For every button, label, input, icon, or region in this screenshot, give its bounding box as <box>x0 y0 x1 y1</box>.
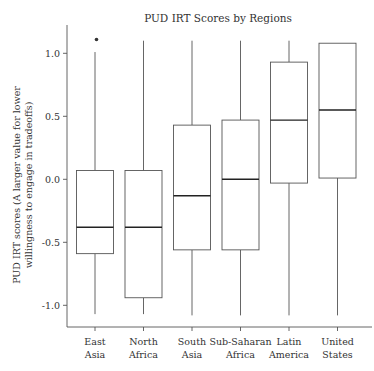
box-east-asia <box>77 38 114 314</box>
x-tick-label: America <box>268 349 309 360</box>
y-tick-label: -0.5 <box>42 237 60 248</box>
chart-title: PUD IRT Scores by Regions <box>144 12 292 24</box>
boxplot-chart: PUD IRT Scores by Regions PUD IRT scores… <box>0 0 374 371</box>
x-tick-label: Latin <box>277 336 302 347</box>
box-north-africa <box>125 41 162 314</box>
y-tick-label: 0.0 <box>45 174 60 185</box>
iqr-box <box>125 170 162 297</box>
x-tick-label: Asia <box>84 349 106 360</box>
iqr-box <box>77 170 114 253</box>
x-tick-label: South <box>178 336 206 347</box>
y-tick-label: -1.0 <box>42 300 60 311</box>
y-axis-label-line-2: willingness to engage in tradeoffs) <box>23 102 34 269</box>
x-tick-label: United <box>321 336 354 347</box>
box-sub-saharan-africa <box>222 41 259 316</box>
x-tick-label: North <box>129 336 158 347</box>
x-tick-label: East <box>84 336 105 347</box>
x-tick-label: Sub-Saharan <box>209 336 271 347</box>
outlier-point <box>95 38 99 42</box>
x-ticks: EastAsiaNorthAfricaSouthAsiaSub-SaharanA… <box>84 327 354 360</box>
box-south-asia <box>174 41 211 316</box>
x-tick-label: States <box>322 349 352 360</box>
iqr-box <box>174 125 211 250</box>
y-tick-label: 0.5 <box>45 111 60 122</box>
iqr-box <box>222 120 259 250</box>
x-tick-label: Asia <box>181 349 203 360</box>
y-tick-label: 1.0 <box>45 48 60 59</box>
x-tick-label: Africa <box>225 349 255 360</box>
boxes <box>77 38 357 316</box>
box-latin-america <box>271 41 308 316</box>
box-united-states <box>319 43 356 315</box>
y-ticks: 1.00.50.0-0.5-1.0 <box>42 48 67 311</box>
y-axis-label-line-1: PUD IRT scores (A larger value for lower <box>11 86 22 284</box>
x-tick-label: Africa <box>128 349 158 360</box>
y-axis-label: PUD IRT scores (A larger value for lower… <box>11 86 34 284</box>
iqr-box <box>271 62 308 183</box>
